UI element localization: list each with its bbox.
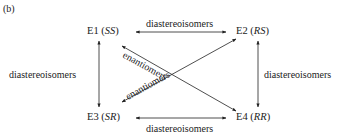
edge-label-bottom: diastereoisomers [146,124,213,134]
edge-label-left: diastereoisomers [9,70,76,80]
edge-label-right: diastereoisomers [264,70,331,80]
edge-label-top: diastereoisomers [146,19,213,29]
